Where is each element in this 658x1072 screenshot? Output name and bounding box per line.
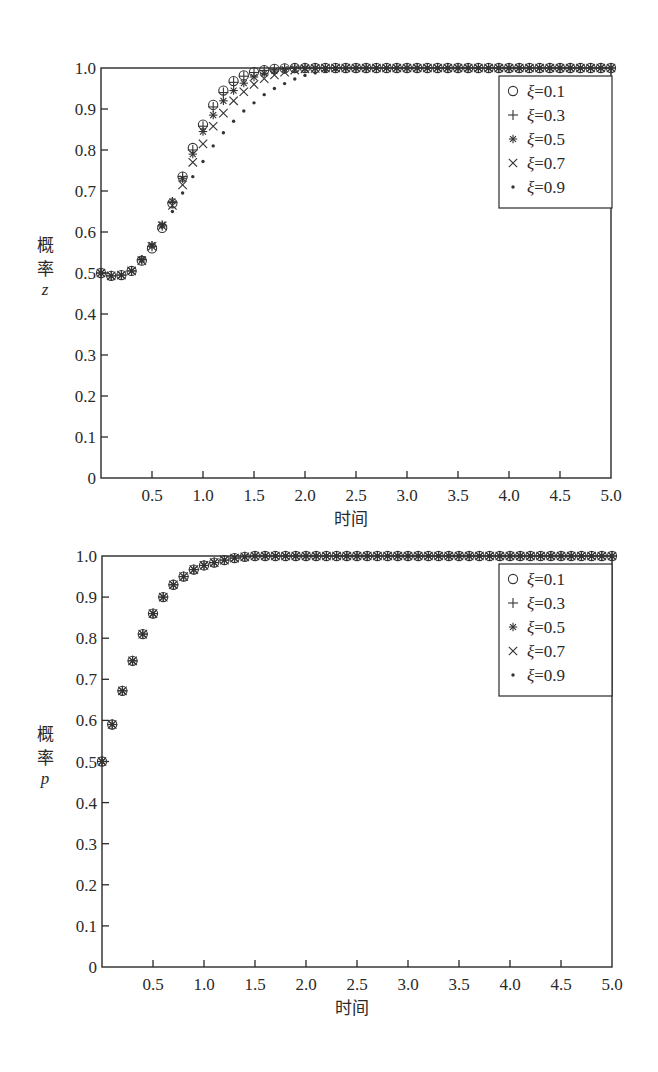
marker-asterisk — [199, 127, 207, 135]
marker-dot — [366, 554, 369, 557]
marker-cross — [209, 122, 217, 130]
chart-probability-z: 00.10.20.30.40.50.60.70.80.91.00.51.01.5… — [37, 59, 622, 529]
x-tick-label: 2.5 — [346, 975, 367, 994]
marker-dot — [181, 191, 184, 194]
marker-dot — [201, 160, 204, 163]
marker-dot — [559, 554, 562, 557]
marker-dot — [284, 554, 287, 557]
marker-asterisk — [509, 135, 517, 143]
marker-dot — [130, 269, 133, 272]
x-tick-label: 5.0 — [600, 486, 621, 505]
x-axis-label: 时间 — [334, 509, 368, 529]
marker-dot — [570, 554, 573, 557]
marker-asterisk — [240, 79, 248, 87]
marker-cross — [189, 158, 197, 166]
svg-text:ξ=0.9: ξ=0.9 — [527, 178, 565, 197]
marker-dot — [518, 66, 521, 69]
marker-dot — [131, 659, 134, 662]
x-tick-label: 3.5 — [448, 975, 469, 994]
marker-dot — [345, 554, 348, 557]
marker-dot — [334, 68, 337, 71]
marker-dot — [456, 66, 459, 69]
marker-dot — [253, 554, 256, 557]
marker-dot — [141, 632, 144, 635]
svg-text:z: z — [41, 280, 49, 299]
marker-dot — [497, 66, 500, 69]
marker-dot — [171, 210, 174, 213]
marker-cross — [240, 88, 248, 96]
legend: ξ=0.1ξ=0.3ξ=0.5ξ=0.7ξ=0.9 — [499, 564, 612, 696]
marker-dot — [498, 554, 501, 557]
marker-dot — [467, 66, 470, 69]
marker-dot — [354, 66, 357, 69]
x-tick-label: 4.5 — [550, 975, 571, 994]
marker-dot — [212, 144, 215, 147]
chart-probability-p: 00.10.20.30.40.50.60.70.80.91.00.51.01.5… — [37, 547, 623, 1018]
y-tick-label: 0.6 — [76, 711, 97, 730]
marker-dot — [365, 66, 368, 69]
marker-dot — [477, 66, 480, 69]
y-tick-label: 0.9 — [76, 588, 97, 607]
y-tick-label: 0.1 — [76, 917, 97, 936]
y-tick-label: 0.5 — [75, 264, 96, 283]
marker-dot — [610, 554, 613, 557]
x-tick-label: 0.5 — [142, 975, 163, 994]
marker-asterisk — [219, 97, 227, 105]
marker-dot — [417, 554, 420, 557]
y-tick-label: 0.2 — [76, 876, 97, 895]
marker-dot — [406, 554, 409, 557]
marker-dot — [511, 185, 514, 188]
marker-dot — [111, 723, 114, 726]
x-tick-label: 4.5 — [549, 486, 570, 505]
y-axis-label: 概率z — [37, 235, 54, 299]
x-tick-label: 1.5 — [243, 486, 264, 505]
y-tick-label: 1.0 — [76, 547, 97, 566]
marker-dot — [549, 554, 552, 557]
marker-dot — [355, 554, 358, 557]
marker-dot — [447, 554, 450, 557]
svg-text:ξ=0.3: ξ=0.3 — [527, 594, 565, 613]
y-tick-label: 0.3 — [75, 346, 96, 365]
marker-dot — [416, 66, 419, 69]
marker-dot — [120, 273, 123, 276]
marker-dot — [405, 66, 408, 69]
marker-dot — [252, 101, 255, 104]
marker-dot — [589, 66, 592, 69]
x-axis-label: 时间 — [335, 998, 369, 1018]
svg-text:ξ=0.1: ξ=0.1 — [527, 570, 565, 589]
x-tick-label: 1.0 — [193, 975, 214, 994]
marker-dot — [100, 760, 103, 763]
marker-asterisk — [209, 111, 217, 119]
x-tick-label: 2.0 — [294, 486, 315, 505]
marker-asterisk — [301, 64, 309, 72]
x-axis: 0.51.01.52.02.53.03.54.04.55.0 — [142, 960, 622, 994]
svg-text:概: 概 — [37, 724, 54, 744]
marker-dot — [457, 554, 460, 557]
svg-text:ξ=0.9: ξ=0.9 — [527, 666, 565, 685]
marker-dot — [243, 555, 246, 558]
y-tick-label: 0.1 — [75, 428, 96, 447]
y-tick-label: 0.8 — [76, 629, 97, 648]
marker-dot — [609, 66, 612, 69]
marker-dot — [375, 66, 378, 69]
marker-dot — [507, 66, 510, 69]
marker-dot — [99, 271, 102, 274]
marker-dot — [538, 66, 541, 69]
x-tick-label: 2.5 — [345, 486, 366, 505]
marker-dot — [478, 554, 481, 557]
marker-dot — [468, 554, 471, 557]
x-tick-label: 0.5 — [141, 486, 162, 505]
svg-text:率: 率 — [37, 748, 54, 768]
y-tick-label: 0.6 — [75, 223, 96, 242]
marker-dot — [519, 554, 522, 557]
marker-dot — [436, 66, 439, 69]
marker-dot — [294, 554, 297, 557]
marker-dot — [182, 575, 185, 578]
marker-dot — [274, 554, 277, 557]
x-tick-label: 3.5 — [447, 486, 468, 505]
marker-dot — [395, 66, 398, 69]
marker-dot — [151, 612, 154, 615]
x-tick-label: 2.0 — [295, 975, 316, 994]
marker-plus — [208, 102, 218, 112]
marker-dot — [325, 554, 328, 557]
